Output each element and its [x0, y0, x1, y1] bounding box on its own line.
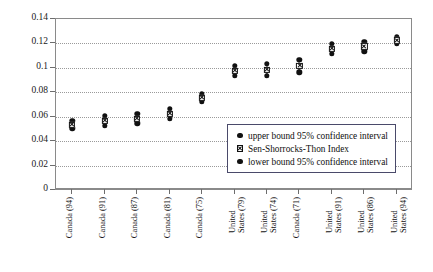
y-axis-tick-label: 0.12	[14, 38, 48, 48]
index-point	[296, 63, 302, 69]
y-axis-tick-label: 0.08	[14, 87, 48, 97]
circle-marker-icon	[234, 159, 246, 164]
circle-marker-icon	[234, 133, 246, 138]
x-axis-tick	[396, 189, 397, 194]
chart-legend: upper bound 95% confidence interval Sen-…	[227, 124, 396, 173]
index-point	[329, 46, 335, 52]
index-point	[69, 122, 75, 128]
legend-label: upper bound 95% confidence interval	[246, 131, 388, 141]
lower-bound-point	[264, 73, 269, 78]
index-point	[102, 118, 108, 124]
x-axis-tick	[71, 189, 72, 194]
index-point	[231, 68, 237, 74]
gridline	[56, 43, 411, 44]
index-point	[134, 115, 140, 121]
x-axis-category-label: Canada (81)	[164, 197, 173, 238]
gridline	[56, 117, 411, 118]
x-axis-category-label: Canada (94)	[66, 197, 75, 238]
chart-container: 00.020.040.060.080.10.120.14 Canada (94)…	[0, 0, 433, 272]
square-x-marker-icon	[234, 145, 246, 151]
upper-bound-point	[264, 61, 269, 66]
x-axis-tick	[104, 189, 105, 194]
x-axis-category-label: Canada (71)	[293, 197, 302, 238]
lower-bound-point	[297, 69, 302, 74]
index-point	[361, 43, 367, 49]
x-axis-tick	[331, 189, 332, 194]
legend-item-upper-bound: upper bound 95% confidence interval	[234, 129, 388, 142]
x-axis-category-label: United States (94)	[391, 197, 409, 233]
x-axis-category-label: United States (79)	[229, 197, 247, 233]
gridline	[56, 92, 411, 93]
legend-label: lower bound 95% confidence interval	[246, 157, 388, 167]
x-axis-tick	[298, 189, 299, 194]
y-axis-tick-label: 0.04	[14, 135, 48, 145]
y-axis-labels: 00.020.040.060.080.10.120.14	[8, 18, 48, 189]
x-axis-tick	[266, 189, 267, 194]
y-axis-tick-label: 0.06	[14, 111, 48, 121]
x-axis-tick	[234, 189, 235, 194]
legend-item-lower-bound: lower bound 95% confidence interval	[234, 155, 388, 168]
y-axis-tick-label: 0.14	[14, 13, 48, 23]
legend-label: Sen-Shorrocks-Thon Index	[246, 144, 349, 154]
index-point	[166, 111, 172, 117]
index-point	[394, 37, 400, 43]
x-axis-category-label: Canada (87)	[131, 197, 140, 238]
x-axis-category-label: Canada (91)	[99, 197, 108, 238]
x-axis-tick	[169, 189, 170, 194]
x-axis-tick	[363, 189, 364, 194]
y-axis-tick-label: 0	[14, 184, 48, 194]
x-axis-tick	[136, 189, 137, 194]
x-axis-category-label: United States (86)	[358, 197, 376, 233]
x-axis-category-label: United States (74)	[261, 197, 279, 233]
y-axis-tick-label: 0.02	[14, 160, 48, 170]
upper-bound-point	[297, 57, 302, 62]
x-axis-category-label: United States (91)	[326, 197, 344, 233]
legend-item-index: Sen-Shorrocks-Thon Index	[234, 142, 388, 155]
x-axis-category-label: Canada (75)	[196, 197, 205, 238]
index-point	[199, 95, 205, 101]
x-axis-tick	[201, 189, 202, 194]
y-axis-tick-label: 0.1	[14, 62, 48, 72]
index-point	[264, 67, 270, 73]
